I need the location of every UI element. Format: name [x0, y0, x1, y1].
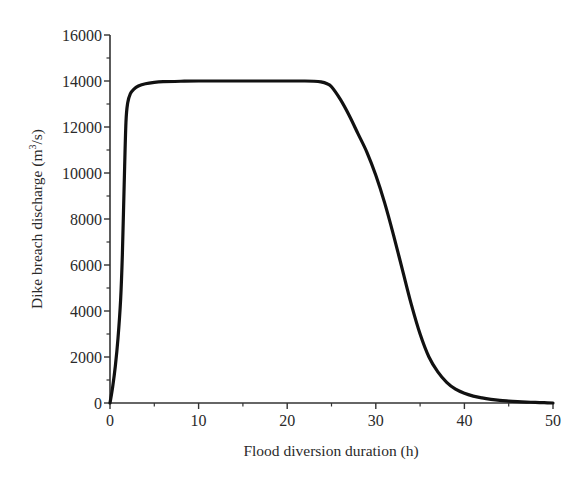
- y-tick-label: 8000: [70, 211, 102, 228]
- line-chart: 0200040006000800010000120001400016000 01…: [0, 0, 586, 481]
- y-tick-label: 2000: [70, 349, 102, 366]
- discharge-curve: [110, 81, 553, 403]
- plot-series: [110, 81, 553, 403]
- x-axis: 01020304050: [106, 403, 561, 429]
- x-tick-label: 30: [368, 412, 384, 429]
- x-axis-title: Flood diversion duration (h): [243, 442, 418, 460]
- x-tick-label: 20: [279, 412, 295, 429]
- y-tick-label: 16000: [62, 27, 102, 44]
- y-tick-label: 6000: [70, 257, 102, 274]
- x-tick-label: 0: [106, 412, 114, 429]
- y-tick-label: 12000: [62, 119, 102, 136]
- x-tick-label: 50: [545, 412, 561, 429]
- y-axis-title: Dike breach discharge (m3/s): [27, 129, 46, 309]
- y-tick-label: 4000: [70, 303, 102, 320]
- y-axis: 0200040006000800010000120001400016000: [62, 27, 110, 412]
- y-tick-label: 10000: [62, 165, 102, 182]
- x-tick-label: 10: [191, 412, 207, 429]
- x-tick-label: 40: [456, 412, 472, 429]
- y-tick-label: 14000: [62, 73, 102, 90]
- y-tick-label: 0: [94, 395, 102, 412]
